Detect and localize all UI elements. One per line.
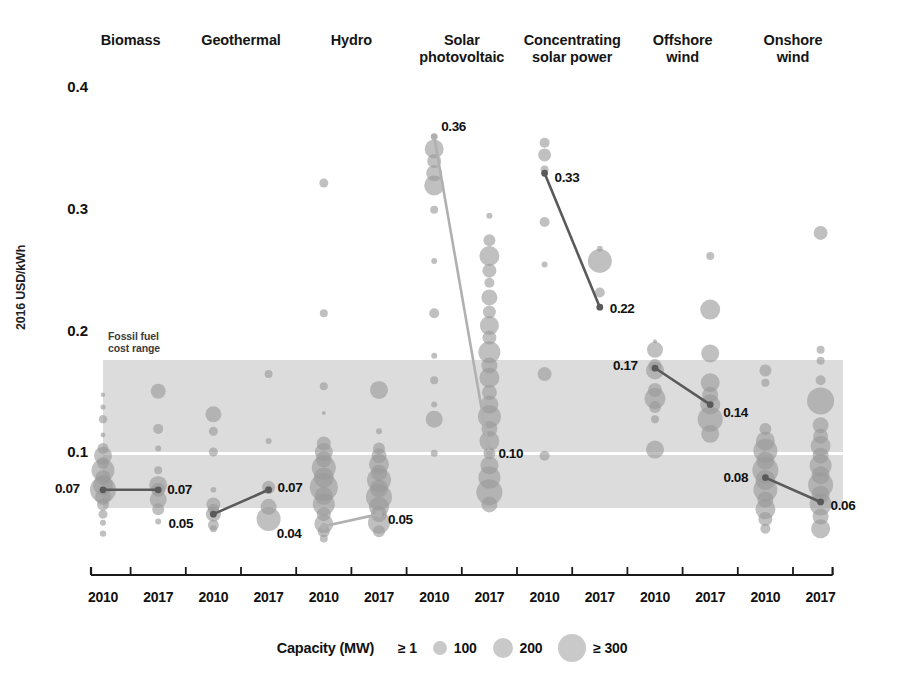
- x-axis-tick-label: 2010: [518, 589, 572, 605]
- data-bubble: [538, 148, 551, 161]
- data-bubble: [371, 506, 387, 522]
- data-bubble: [425, 139, 444, 158]
- data-bubble: [100, 530, 106, 536]
- category-header-onshore-wind: Onshorewind: [718, 32, 868, 66]
- value-annotation-offshore-wind-2010: 0.17: [613, 358, 638, 373]
- y-axis-tick-0.3: 0.3: [42, 200, 88, 217]
- data-bubble: [368, 512, 390, 534]
- data-bubble: [541, 166, 549, 174]
- data-bubble: [483, 234, 495, 246]
- data-bubble: [486, 213, 492, 219]
- x-axis-tick-label: 2010: [186, 589, 240, 605]
- data-bubble: [479, 246, 499, 266]
- chart-root: 2016 USD/kWh 0.10.20.30.4 BiomassGeother…: [0, 0, 904, 678]
- y-axis-title: 2016 USD/kWh: [14, 245, 28, 330]
- data-bubble: [542, 262, 548, 268]
- value-annotation-concentrating-solar-power-2010: 0.33: [555, 170, 580, 185]
- legend-title: Capacity (MW): [277, 640, 374, 656]
- y-axis-tick-0.2: 0.2: [42, 322, 88, 339]
- legend-items: ≥ 1100200≥ 300: [398, 634, 627, 662]
- weighted-average-marker: [431, 133, 438, 140]
- x-axis-tick-label: 2017: [462, 589, 516, 605]
- data-bubble: [811, 519, 830, 538]
- data-bubble: [814, 226, 828, 240]
- x-axis-tick-label: 2010: [76, 589, 130, 605]
- data-bubble: [540, 138, 550, 148]
- fossil-fuel-cost-range-band: [103, 360, 843, 509]
- legend-entry: 200: [493, 638, 543, 658]
- data-bubble: [155, 518, 161, 524]
- x-axis-tick-label: 2017: [242, 589, 296, 605]
- value-annotation-geothermal-2010: 0.05: [168, 516, 193, 531]
- data-bubble: [426, 165, 442, 181]
- weighted-average-connector: [324, 514, 379, 526]
- value-annotation-onshore-wind-2010: 0.08: [723, 470, 748, 485]
- data-bubble: [431, 258, 437, 264]
- data-bubble: [427, 154, 441, 168]
- fossil-fuel-midline: [103, 452, 843, 455]
- data-bubble: [817, 346, 825, 354]
- legend-bubble-icon: [493, 638, 513, 658]
- weighted-average-marker: [320, 523, 327, 530]
- x-axis-tick-label: 2010: [407, 589, 461, 605]
- data-bubble: [429, 308, 439, 318]
- legend-entry: 100: [433, 640, 477, 656]
- data-bubble: [431, 353, 437, 359]
- legend-label: 100: [454, 640, 477, 656]
- x-axis-tick-label: 2017: [131, 589, 185, 605]
- legend-label: ≥ 300: [593, 640, 627, 656]
- value-annotation-solar-photovoltaic-2017: 0.10: [498, 446, 523, 461]
- x-axis-tick-label: 2017: [683, 589, 737, 605]
- data-bubble: [314, 514, 333, 533]
- data-bubble: [480, 316, 499, 335]
- data-bubble: [319, 178, 328, 187]
- legend-bubble-icon: [558, 634, 586, 662]
- data-bubble: [588, 249, 612, 273]
- data-bubble: [317, 507, 331, 521]
- legend-entry: ≥ 1: [398, 640, 417, 656]
- x-axis-tick-label: 2017: [794, 589, 848, 605]
- capacity-legend: Capacity (MW) ≥ 1100200≥ 300: [0, 634, 904, 662]
- data-bubble: [484, 278, 494, 288]
- legend-label: ≥ 1: [398, 640, 417, 656]
- weighted-average-marker: [596, 304, 603, 311]
- data-bubble: [813, 509, 829, 525]
- data-bubble: [99, 510, 108, 519]
- data-bubble: [320, 534, 328, 542]
- x-axis-tick-label: 2010: [628, 589, 682, 605]
- value-annotation-geothermal-2017: 0.07: [278, 480, 303, 495]
- value-annotation-solar-photovoltaic-2010: 0.36: [441, 119, 466, 134]
- data-bubble: [100, 520, 106, 526]
- data-bubble: [760, 524, 770, 534]
- fossil-fuel-band-label: Fossil fuelcost range: [108, 330, 160, 354]
- data-bubble: [482, 264, 496, 278]
- data-bubble: [597, 246, 603, 252]
- data-bubble: [706, 252, 714, 260]
- y-axis-tick-0.4: 0.4: [42, 78, 88, 95]
- data-bubble: [700, 300, 720, 320]
- data-bubble: [373, 525, 385, 537]
- data-bubble: [208, 520, 219, 531]
- data-bubble: [206, 507, 221, 522]
- x-axis-tick-label: 2010: [738, 589, 792, 605]
- value-annotation-onshore-wind-2017: 0.06: [831, 498, 856, 513]
- data-bubble: [431, 134, 437, 140]
- value-annotation-offshore-wind-2017: 0.14: [723, 405, 748, 420]
- value-annotation-biomass-2010: 0.07: [55, 481, 80, 496]
- data-bubble: [481, 289, 497, 305]
- value-annotation-concentrating-solar-power-2017: 0.22: [610, 301, 635, 316]
- legend-entry: ≥ 300: [558, 634, 627, 662]
- data-bubble: [540, 217, 550, 227]
- weighted-average-marker: [376, 511, 383, 518]
- x-axis-tick-label: 2017: [352, 589, 406, 605]
- data-bubble: [595, 288, 605, 298]
- x-axis-tick-label: 2010: [297, 589, 351, 605]
- weighted-average-marker: [210, 511, 217, 518]
- data-bubble: [320, 309, 328, 317]
- legend-bubble-icon: [433, 641, 447, 655]
- data-bubble: [597, 304, 603, 310]
- weighted-average-marker: [541, 170, 548, 177]
- value-annotation-hydro-2010: 0.04: [277, 526, 302, 541]
- data-bubble: [483, 306, 496, 319]
- data-bubble: [653, 339, 657, 343]
